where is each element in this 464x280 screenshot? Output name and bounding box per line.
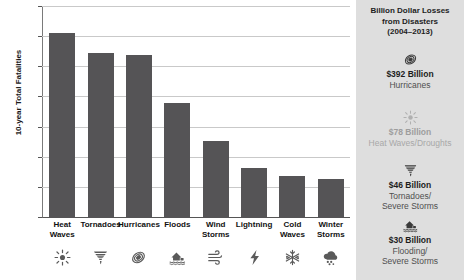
bar	[49, 33, 75, 218]
x-axis-label-line2: Waves	[50, 230, 75, 239]
sidebar-entry-amount: $30 Billion	[358, 235, 462, 246]
x-axis-icons	[43, 249, 350, 277]
bar	[126, 55, 152, 218]
x-axis-label-line1: Winter	[318, 220, 343, 229]
lightning-icon	[235, 249, 273, 266]
sidebar-title-line1: Billion Dollar Losses	[370, 6, 449, 15]
x-axis-labels: HeatWavesTornadoesHurricanesFloodsWindSt…	[43, 220, 350, 250]
y-tick-mark	[38, 66, 42, 67]
flood-house-icon	[158, 249, 196, 266]
x-axis-label-line1: Floods	[164, 220, 190, 229]
x-axis-label: WinterStorms	[308, 220, 354, 239]
sidebar-entry-amount: $78 Billion	[358, 127, 462, 138]
sidebar-entry-category: Hurricanes	[358, 80, 462, 91]
x-axis-label-line1: Tornadoes	[80, 220, 120, 229]
y-tick-mark	[38, 96, 42, 97]
sun-icon	[43, 249, 81, 266]
y-tick-mark	[38, 157, 42, 158]
y-axis-title: 10-year Total Fatalities	[14, 23, 23, 163]
bar	[203, 141, 229, 218]
sun-icon	[358, 110, 462, 126]
y-tick-mark	[38, 217, 42, 218]
bar	[318, 179, 344, 218]
sidebar-entry-category: Heat Waves/Droughts	[358, 138, 462, 149]
tornado-icon	[81, 249, 119, 266]
y-tick-mark	[38, 6, 42, 7]
bar	[164, 103, 190, 218]
x-axis-label-line1: Heat	[54, 220, 71, 229]
y-tick-mark	[38, 187, 42, 188]
snowflake-icon	[273, 249, 311, 266]
sidebar-entry: $78 BillionHeat Waves/Droughts	[358, 110, 462, 148]
y-tick-mark	[38, 127, 42, 128]
sidebar-panel: Billion Dollar Losses from Disasters (20…	[356, 0, 464, 280]
sidebar-entry-category: Tornadoes/Severe Storms	[358, 191, 462, 212]
bar-series	[43, 6, 350, 218]
x-axis-label-line1: Wind	[206, 220, 225, 229]
sidebar-entry: $46 BillionTornadoes/Severe Storms	[358, 163, 462, 212]
hurricane-icon	[358, 52, 462, 68]
wind-icon	[197, 249, 235, 266]
tornado-icon	[358, 163, 462, 179]
sidebar-entry-category: Flooding/Severe Storms	[358, 246, 462, 267]
x-axis-label-line1: Cold	[284, 220, 302, 229]
sidebar-entry: $30 BillionFlooding/Severe Storms	[358, 218, 462, 267]
snow-cloud-icon	[312, 249, 350, 266]
flood-house-icon	[358, 218, 462, 234]
sidebar-title-line2: from Disasters	[382, 17, 438, 26]
sidebar-entry-amount: $392 Billion	[358, 69, 462, 80]
x-axis-label-line1: Lightning	[236, 220, 272, 229]
bar	[279, 176, 305, 218]
bar	[241, 168, 267, 218]
y-tick-mark	[38, 36, 42, 37]
bar	[88, 53, 114, 218]
hurricane-icon	[120, 249, 158, 266]
chart-infographic: 10-year Total Fatalities 020040060080010…	[0, 0, 464, 280]
sidebar-entry-amount: $46 Billion	[358, 180, 462, 191]
x-axis-label-line2: Storms	[202, 230, 230, 239]
sidebar-title: Billion Dollar Losses from Disasters (20…	[358, 6, 462, 38]
sidebar-title-line3: (2004–2013)	[387, 27, 432, 36]
x-axis-label-line2: Storms	[317, 230, 345, 239]
x-axis-label-line2: Waves	[280, 230, 305, 239]
sidebar-entry: $392 BillionHurricanes	[358, 52, 462, 90]
